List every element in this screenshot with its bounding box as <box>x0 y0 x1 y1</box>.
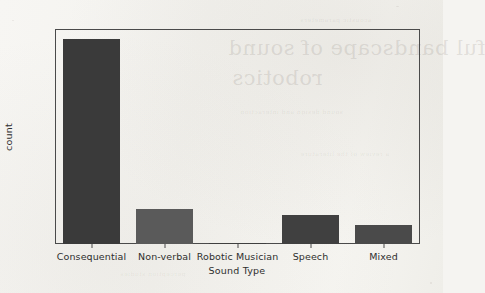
x-tick-label-speech: Speech <box>293 251 329 262</box>
x-tick-mark <box>164 244 165 248</box>
x-tick-mark <box>310 244 311 248</box>
x-tick-label-non-verbal: Non-verbal <box>138 251 191 262</box>
plot-area <box>55 29 420 244</box>
x-axis-title: Sound Type <box>209 265 266 276</box>
bar-speech[interactable] <box>282 215 339 244</box>
x-tick-mark <box>383 244 384 248</box>
x-tick-label-consequential: Consequential <box>57 251 126 262</box>
x-tick-label-robotic-musician: Robotic Musician <box>197 251 279 262</box>
bar-mixed[interactable] <box>355 225 412 244</box>
x-tick-mark <box>237 244 238 248</box>
bar-non-verbal[interactable] <box>136 209 193 244</box>
x-tick-mark <box>91 244 92 248</box>
bar-consequential[interactable] <box>63 39 120 244</box>
x-tick-label-mixed: Mixed <box>369 251 398 262</box>
y-axis-title: count <box>3 123 14 151</box>
